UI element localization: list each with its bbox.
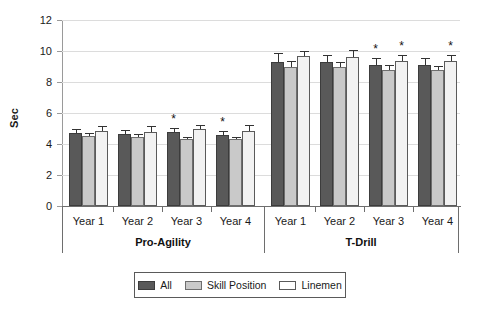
bar	[69, 133, 82, 206]
group-label: Pro-Agility	[93, 236, 233, 248]
error-bar-cap	[219, 131, 228, 132]
error-bar-cap	[336, 62, 345, 63]
bar	[395, 61, 408, 206]
bar	[297, 56, 310, 206]
bar	[271, 62, 284, 206]
error-bar-cap	[147, 126, 156, 127]
bar	[118, 134, 131, 206]
error-bar-cap	[274, 53, 283, 54]
significance-marker: *	[444, 42, 458, 50]
bar	[382, 70, 395, 206]
legend-label: Linemen	[301, 279, 341, 291]
error-bar-cap	[245, 125, 254, 126]
legend-swatch	[279, 281, 296, 290]
bar	[95, 131, 108, 206]
y-tick-label: 12	[26, 15, 52, 26]
group-separator	[62, 207, 63, 253]
group-label: T-Drill	[291, 236, 431, 248]
bar	[369, 65, 382, 206]
error-bar-cap	[398, 55, 407, 56]
legend-swatch	[138, 281, 155, 290]
significance-marker: *	[216, 118, 230, 126]
figure: Sec 024681012 ***** Year 1Year 2Year 3Ye…	[0, 0, 477, 319]
legend-item: Linemen	[279, 279, 341, 291]
significance-marker: *	[167, 115, 181, 123]
bar	[193, 129, 206, 206]
bar	[346, 57, 359, 206]
bar	[444, 61, 457, 206]
significance-marker: *	[369, 45, 383, 53]
bar	[144, 132, 157, 206]
bar	[418, 65, 431, 206]
error-bar-cap	[85, 133, 94, 134]
error-bar-cap	[421, 58, 430, 59]
error-bar-cap	[349, 50, 358, 51]
x-tick-mark	[315, 207, 316, 212]
error-bar-cap	[232, 137, 241, 138]
bar	[333, 67, 346, 206]
error-bar	[278, 53, 279, 62]
gridline	[62, 20, 460, 21]
error-bar-cap	[183, 137, 192, 138]
error-bar-cap	[372, 58, 381, 59]
error-bar-cap	[287, 61, 296, 62]
bar	[216, 135, 229, 206]
y-tick-label: 8	[26, 77, 52, 88]
legend-label: All	[160, 279, 172, 291]
error-bar-cap	[447, 55, 456, 56]
y-tick-label: 6	[26, 108, 52, 119]
bar	[284, 67, 297, 206]
legend-swatch	[185, 281, 202, 290]
bar	[180, 139, 193, 206]
error-bar-cap	[323, 55, 332, 56]
significance-marker: *	[395, 42, 409, 50]
error-bar	[353, 50, 354, 57]
error-bar	[376, 58, 377, 65]
error-bar-cap	[121, 130, 130, 131]
x-tick-mark	[364, 207, 365, 212]
error-bar-cap	[196, 125, 205, 126]
y-tick-label: 4	[26, 139, 52, 150]
bar	[229, 139, 242, 206]
error-bar-cap	[98, 126, 107, 127]
error-bar-cap	[134, 134, 143, 135]
error-bar-cap	[434, 66, 443, 67]
error-bar-cap	[170, 128, 179, 129]
legend: AllSkill PositionLinemen	[134, 272, 346, 298]
y-tick-label: 10	[26, 46, 52, 57]
x-tick-mark	[113, 207, 114, 212]
bar	[167, 132, 180, 206]
y-tick-label: 0	[26, 201, 52, 212]
category-axis: Year 1Year 2Year 3Year 4Year 1Year 2Year…	[62, 207, 461, 255]
bar	[320, 62, 333, 206]
y-tick-label: 2	[26, 170, 52, 181]
group-separator	[458, 207, 459, 253]
bar	[82, 136, 95, 206]
bar	[131, 137, 144, 206]
bar	[431, 70, 444, 206]
error-bar	[425, 58, 426, 65]
plot-area: *****	[62, 20, 460, 206]
legend-item: Skill Position	[185, 279, 267, 291]
bar	[242, 131, 255, 206]
x-tick-label: Year 4	[406, 215, 470, 227]
x-tick-mark	[162, 207, 163, 212]
error-bar	[327, 55, 328, 62]
group-separator	[264, 207, 265, 253]
x-tick-mark	[211, 207, 212, 212]
legend-item: All	[138, 279, 172, 291]
error-bar-cap	[72, 129, 81, 130]
legend-label: Skill Position	[207, 279, 267, 291]
error-bar-cap	[300, 51, 309, 52]
error-bar-cap	[385, 65, 394, 66]
y-axis-label: Sec	[8, 88, 20, 148]
x-tick-mark	[413, 207, 414, 212]
